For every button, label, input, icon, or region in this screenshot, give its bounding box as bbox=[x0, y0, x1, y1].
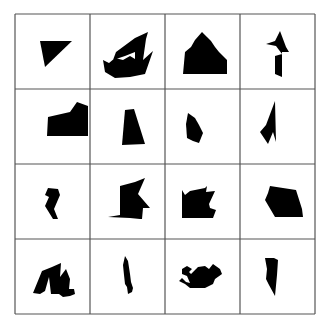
shape-grid-figure bbox=[0, 0, 332, 330]
